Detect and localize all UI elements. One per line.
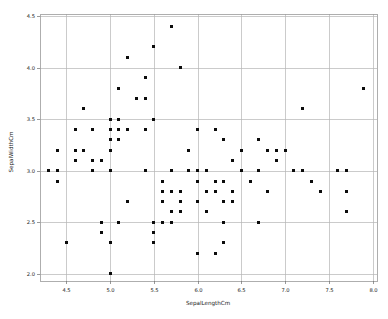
scatter-point (82, 149, 85, 152)
data-points (47, 25, 365, 275)
scatter-point (126, 56, 129, 59)
scatter-point (292, 169, 295, 172)
scatter-point (117, 221, 120, 224)
scatter-point (257, 221, 260, 224)
scatter-point (144, 97, 147, 100)
plot-canvas: 4.55.05.56.06.57.07.58.0 2.02.53.03.54.0… (0, 0, 388, 319)
scatter-point (222, 221, 225, 224)
scatter-point (196, 128, 199, 131)
scatter-point (319, 190, 322, 193)
y-tick-label: 2.0 (27, 271, 35, 277)
scatter-point (144, 76, 147, 79)
x-tick-label: 7.0 (281, 287, 289, 293)
scatter-point (240, 169, 243, 172)
x-axis-title: SepalLengthCm (186, 300, 230, 307)
y-axis-title: SepalWidthCm (8, 131, 15, 172)
scatter-point (205, 190, 208, 193)
scatter-point (74, 128, 77, 131)
scatter-point (135, 97, 138, 100)
scatter-point (170, 190, 173, 193)
scatter-point (100, 221, 103, 224)
scatter-point (152, 231, 155, 234)
scatter-plot-figure: 4.55.05.56.06.57.07.58.0 2.02.53.03.54.0… (0, 0, 388, 319)
scatter-point (284, 149, 287, 152)
scatter-point (109, 149, 112, 152)
scatter-point (301, 107, 304, 110)
scatter-point (231, 190, 234, 193)
x-tick-label: 8.0 (369, 287, 377, 293)
scatter-point (56, 169, 59, 172)
x-tick-label: 6.0 (194, 287, 202, 293)
x-axis-tick-labels: 4.55.05.56.06.57.07.58.0 (62, 287, 377, 293)
scatter-point (65, 241, 68, 244)
scatter-point (214, 252, 217, 255)
scatter-point (47, 169, 50, 172)
x-tick-label: 4.5 (62, 287, 70, 293)
scatter-point (214, 190, 217, 193)
scatter-point (152, 221, 155, 224)
scatter-point (196, 169, 199, 172)
scatter-point (91, 159, 94, 162)
scatter-point (74, 159, 77, 162)
plot-border (41, 15, 378, 282)
y-tick-label: 3.5 (27, 116, 35, 122)
y-tick-label: 2.5 (27, 219, 35, 225)
scatter-point (179, 200, 182, 203)
scatter-point (117, 118, 120, 121)
scatter-point (196, 200, 199, 203)
scatter-point (275, 149, 278, 152)
scatter-point (56, 180, 59, 183)
scatter-point (144, 169, 147, 172)
scatter-point (336, 169, 339, 172)
scatter-point (187, 149, 190, 152)
scatter-point (301, 169, 304, 172)
scatter-point (240, 149, 243, 152)
scatter-point (126, 200, 129, 203)
x-tick-label: 7.5 (325, 287, 333, 293)
scatter-point (266, 190, 269, 193)
scatter-point (161, 190, 164, 193)
scatter-point (170, 169, 173, 172)
scatter-point (91, 169, 94, 172)
scatter-point (214, 180, 217, 183)
y-tick-label: 4.5 (27, 13, 35, 19)
scatter-point (152, 241, 155, 244)
scatter-point (362, 87, 365, 90)
scatter-point (161, 180, 164, 183)
x-tick-label: 5.0 (106, 287, 114, 293)
scatter-point (170, 25, 173, 28)
scatter-point (266, 149, 269, 152)
scatter-point (144, 128, 147, 131)
scatter-point (257, 138, 260, 141)
scatter-point (231, 200, 234, 203)
axes-frame (41, 15, 378, 282)
scatter-point (109, 138, 112, 141)
scatter-point (205, 210, 208, 213)
scatter-point (196, 180, 199, 183)
scatter-point (82, 107, 85, 110)
x-tick-label: 5.5 (150, 287, 158, 293)
scatter-point (222, 241, 225, 244)
scatter-point (214, 128, 217, 131)
scatter-point (179, 66, 182, 69)
scatter-point (117, 87, 120, 90)
y-axis-tick-labels: 2.02.53.03.54.04.5 (27, 13, 35, 277)
scatter-point (109, 118, 112, 121)
grid-layer (40, 14, 377, 281)
scatter-point (100, 159, 103, 162)
scatter-point (126, 128, 129, 131)
scatter-point (152, 45, 155, 48)
scatter-point (257, 169, 260, 172)
scatter-point (109, 169, 112, 172)
scatter-point (345, 190, 348, 193)
x-tick-label: 6.5 (237, 287, 245, 293)
y-tick-label: 3.0 (27, 168, 35, 174)
scatter-point (275, 159, 278, 162)
scatter-point (170, 221, 173, 224)
scatter-point (179, 190, 182, 193)
scatter-point (231, 159, 234, 162)
scatter-point (170, 210, 173, 213)
scatter-point (310, 180, 313, 183)
scatter-point (109, 128, 112, 131)
scatter-point (91, 128, 94, 131)
